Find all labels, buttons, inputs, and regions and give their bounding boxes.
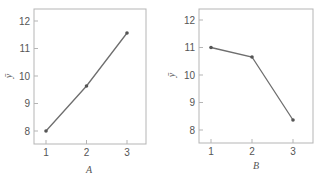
- plot-frame: [34, 9, 146, 144]
- data-point: [291, 118, 295, 122]
- x-axis-title: A: [85, 164, 93, 175]
- data-point: [85, 84, 89, 88]
- x-tick-label: 2: [249, 146, 255, 157]
- data-point: [44, 129, 48, 133]
- y-tick-label: 9: [24, 98, 30, 109]
- x-axis-title: B: [253, 160, 259, 171]
- x-axis: [46, 140, 127, 144]
- data-point: [250, 55, 254, 59]
- y-tick-label: 9: [189, 97, 195, 108]
- y-axis-title: ȳ: [166, 72, 177, 78]
- x-tick-label: 3: [124, 147, 130, 158]
- x-axis: [211, 139, 293, 143]
- x-tick-label: 3: [290, 146, 296, 157]
- chart-panel-a: 8 9 10 11 12 1 2 3 A ȳ: [3, 9, 146, 175]
- x-tick-label: 1: [208, 146, 214, 157]
- y-tick-label: 8: [189, 125, 195, 136]
- y-axis-title: ȳ: [3, 73, 14, 79]
- plot-frame: [199, 9, 313, 143]
- data-point: [209, 46, 213, 50]
- figure: 8 9 10 11 12 1 2 3 A ȳ 8 9: [0, 0, 320, 177]
- data-point: [125, 31, 129, 35]
- x-tick-label: 2: [84, 147, 90, 158]
- y-tick-label: 10: [184, 70, 196, 81]
- chart-panel-b: 8 9 10 11 12 1 2 3 B ȳ: [166, 9, 313, 171]
- y-tick-label: 12: [184, 15, 196, 26]
- x-tick-label: 1: [43, 147, 49, 158]
- y-tick-label: 11: [20, 43, 31, 54]
- y-tick-label: 8: [24, 126, 30, 137]
- y-axis: [34, 21, 38, 131]
- y-tick-label: 10: [19, 71, 31, 82]
- y-tick-label: 12: [19, 16, 31, 27]
- y-tick-label: 11: [185, 42, 196, 53]
- y-axis: [199, 20, 203, 130]
- data-line: [46, 33, 127, 131]
